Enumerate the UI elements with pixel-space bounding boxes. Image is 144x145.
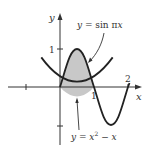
y-axis-label: y [48, 12, 55, 23]
chart-canvas: y x 1 1 2 y = sin πx y = x2 − x [0, 0, 144, 145]
x-tick-2-label: 2 [125, 74, 131, 84]
sine-equation-label: y = sin πx [76, 20, 123, 30]
sine-label-pointer [89, 33, 104, 62]
y-tick-1-label: 1 [49, 45, 55, 55]
parabola-label-pointer [77, 100, 79, 130]
parabola-equation-label: y = x2 − x [70, 130, 117, 142]
y-axis-arrow-icon [58, 13, 63, 20]
x-axis-label: x [136, 91, 142, 102]
x-axis-arrow-icon [135, 85, 142, 90]
parabola-pointer-arrow-icon [75, 98, 78, 104]
x-tick-1-label: 1 [91, 91, 97, 101]
